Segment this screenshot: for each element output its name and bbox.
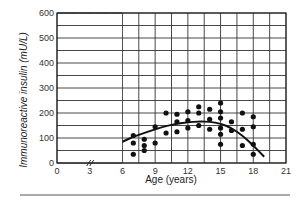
data-point — [218, 142, 223, 147]
data-point — [185, 125, 190, 130]
data-point — [229, 119, 234, 124]
y-tick-label: 500 — [39, 33, 54, 43]
data-point — [142, 148, 147, 153]
data-point — [218, 100, 223, 105]
x-axis-label: Age (years) — [145, 174, 197, 185]
data-point — [153, 124, 158, 129]
y-tick-label: 200 — [39, 108, 54, 118]
x-tick-label: 21 — [281, 166, 291, 176]
x-tick-label: 18 — [248, 166, 258, 176]
data-point — [207, 117, 212, 122]
x-tick-label: 3 — [87, 166, 92, 176]
x-tick-label: 15 — [216, 166, 226, 176]
data-point — [142, 143, 147, 148]
x-tick-label: 6 — [120, 166, 125, 176]
data-point — [142, 137, 147, 142]
data-point — [251, 142, 256, 147]
data-point — [174, 119, 179, 124]
data-point — [229, 128, 234, 133]
data-point — [185, 109, 190, 114]
data-point — [218, 125, 223, 130]
y-tick-label: 100 — [39, 133, 54, 143]
data-point — [251, 114, 256, 119]
y-tick-label: 300 — [39, 83, 54, 93]
y-tick-label: 0 — [49, 158, 54, 168]
data-point — [251, 124, 256, 129]
data-point — [196, 110, 201, 115]
data-point — [153, 140, 158, 145]
data-point — [163, 110, 168, 115]
data-point — [174, 112, 179, 117]
y-axis-label: Immunoreactive insulin (mU/L) — [18, 32, 29, 168]
y-tick-label: 400 — [39, 58, 54, 68]
data-point — [218, 132, 223, 137]
data-point — [174, 129, 179, 134]
data-point — [196, 104, 201, 109]
data-point — [218, 109, 223, 114]
data-point — [240, 110, 245, 115]
data-point — [131, 133, 136, 138]
grid — [57, 13, 286, 163]
data-point — [207, 107, 212, 112]
y-tick-label: 600 — [39, 8, 54, 18]
data-point — [131, 152, 136, 157]
data-point — [240, 127, 245, 132]
data-point — [163, 130, 168, 135]
data-point — [218, 115, 223, 120]
data-point — [207, 127, 212, 132]
insulin-age-chart: 0369121518210100200300400500600 Age (yea… — [0, 0, 302, 199]
data-point — [251, 152, 256, 157]
data-point — [185, 118, 190, 123]
x-tick-label: 0 — [54, 166, 59, 176]
data-point — [196, 123, 201, 128]
data-point — [240, 143, 245, 148]
data-point — [131, 140, 136, 145]
